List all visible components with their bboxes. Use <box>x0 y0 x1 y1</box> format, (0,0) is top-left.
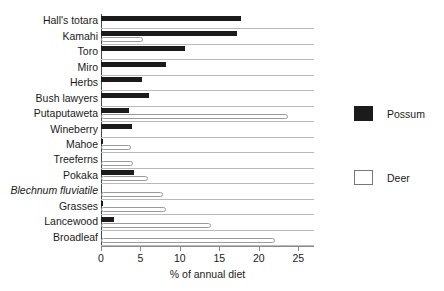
bar-deer <box>101 223 211 228</box>
category-label: Miro <box>0 62 98 73</box>
legend-swatch-possum-icon <box>354 106 373 121</box>
x-tick-label: 20 <box>253 252 265 264</box>
chart-container: Hall's totaraKamahiToroMiroHerbsBush law… <box>0 0 444 291</box>
x-axis-line <box>101 246 314 247</box>
bar-deer <box>101 207 166 212</box>
bar-possum <box>101 62 166 67</box>
chart-row <box>101 91 314 106</box>
plot-area <box>101 14 314 246</box>
bar-deer <box>101 145 131 150</box>
bar-deer <box>101 161 133 166</box>
chart-row <box>101 45 314 60</box>
chart-row <box>101 215 314 230</box>
bar-possum <box>101 139 103 144</box>
bar-possum <box>101 217 114 222</box>
category-label: Hall's totara <box>0 15 98 26</box>
x-tick-label: 10 <box>174 252 186 264</box>
bar-possum <box>101 77 142 82</box>
category-label: Broadleaf <box>0 232 98 243</box>
x-tick-mark <box>101 247 102 251</box>
category-label: Bush lawyers <box>0 93 98 104</box>
category-label: Kamahi <box>0 31 98 42</box>
chart-row <box>101 107 314 122</box>
x-tick-mark <box>219 247 220 251</box>
bar-possum <box>101 124 132 129</box>
bar-possum <box>101 201 103 206</box>
bar-deer <box>101 37 143 42</box>
x-tick-label: 5 <box>138 252 144 264</box>
bar-possum <box>101 16 241 21</box>
x-tick-label: 15 <box>213 252 225 264</box>
category-label: Mahoe <box>0 139 98 150</box>
legend-label-possum: Possum <box>387 108 425 120</box>
x-tick-label: 25 <box>292 252 304 264</box>
bar-deer <box>101 192 163 197</box>
legend-swatch-deer-icon <box>354 170 373 185</box>
chart-row <box>101 184 314 199</box>
x-tick-mark <box>180 247 181 251</box>
chart-row <box>101 14 314 29</box>
category-label: Wineberry <box>0 124 98 135</box>
chart-row <box>101 231 314 246</box>
x-tick-mark <box>259 247 260 251</box>
bar-deer <box>101 238 275 243</box>
bar-possum <box>101 46 185 51</box>
chart-row <box>101 138 314 153</box>
bar-possum <box>101 31 237 36</box>
category-label: Pokaka <box>0 170 98 181</box>
x-tick-mark <box>298 247 299 251</box>
bar-possum <box>101 93 149 98</box>
row-baseline <box>101 245 314 246</box>
legend-item-deer: Deer <box>354 170 410 185</box>
category-label: Putaputaweta <box>0 108 98 119</box>
chart-row <box>101 153 314 168</box>
category-label: Treeferns <box>0 154 98 165</box>
category-label: Herbs <box>0 77 98 88</box>
legend-label-deer: Deer <box>387 172 410 184</box>
chart-row <box>101 60 314 75</box>
x-axis-title: % of annual diet <box>101 268 314 280</box>
bar-deer <box>101 176 148 181</box>
category-label: Blechnum fluviatile <box>0 185 98 196</box>
chart-row <box>101 76 314 91</box>
x-tick-label: 0 <box>98 252 104 264</box>
legend-item-possum: Possum <box>354 106 425 121</box>
bar-deer <box>101 114 288 119</box>
x-tick-mark <box>140 247 141 251</box>
y-axis-category-labels: Hall's totaraKamahiToroMiroHerbsBush law… <box>0 14 98 246</box>
chart-row <box>101 169 314 184</box>
bar-possum <box>101 108 129 113</box>
chart-row <box>101 122 314 137</box>
chart-row <box>101 200 314 215</box>
category-label: Toro <box>0 46 98 57</box>
category-label: Grasses <box>0 201 98 212</box>
bar-possum <box>101 170 134 175</box>
category-label: Lancewood <box>0 216 98 227</box>
chart-row <box>101 29 314 44</box>
